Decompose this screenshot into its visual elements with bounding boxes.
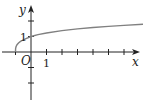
- x-axis-label: x: [132, 55, 139, 69]
- function-curve: [16, 24, 144, 52]
- x-tick-label-1: 1: [43, 57, 50, 70]
- y-tick-label-1: 1: [20, 31, 27, 44]
- function-graph: y x O 1 1: [0, 0, 143, 102]
- y-axis-label: y: [18, 3, 26, 17]
- origin-label: O: [21, 54, 31, 68]
